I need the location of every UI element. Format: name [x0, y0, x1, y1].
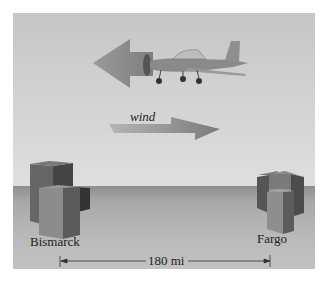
bismarck-buildings — [30, 161, 90, 239]
fargo-buildings — [257, 171, 304, 234]
wind-arrow — [109, 117, 220, 140]
airplane-icon — [143, 41, 248, 84]
distance-label: 180 mi — [148, 253, 184, 269]
fargo-label: Fargo — [257, 231, 287, 247]
bismarck-label: Bismarck — [30, 234, 80, 250]
wind-label: wind — [130, 109, 155, 125]
diagram-panel: wind Bismarck Fargo 180 mi — [13, 13, 315, 269]
